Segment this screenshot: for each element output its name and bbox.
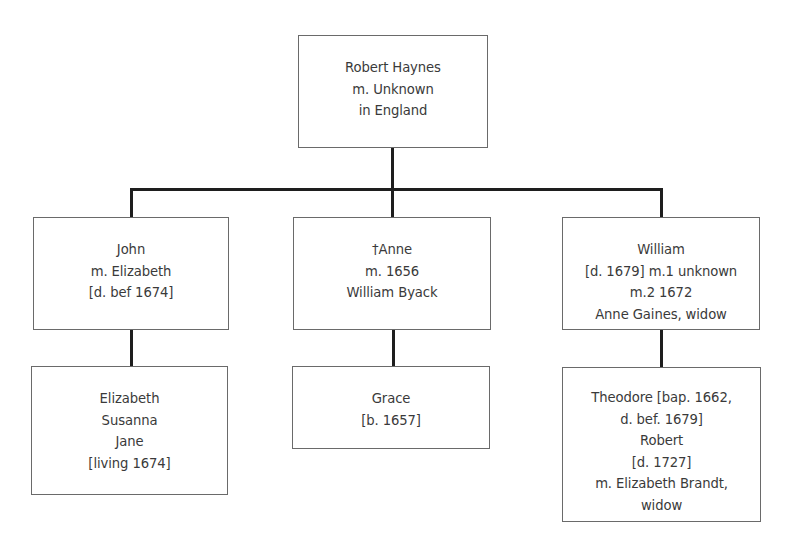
node-line: Jane xyxy=(115,431,143,453)
node-robert-haynes: Robert Haynes m. Unknown in England xyxy=(298,35,488,148)
node-line: d. bef. 1679] xyxy=(620,409,703,431)
node-john: John m. Elizabeth [d. bef 1674] xyxy=(33,217,229,330)
connector-anne-children xyxy=(392,330,395,367)
node-line: widow xyxy=(641,495,682,517)
node-line: in England xyxy=(359,100,428,122)
node-line: William Byack xyxy=(346,282,437,304)
node-line: Grace xyxy=(372,388,411,410)
node-line: [living 1674] xyxy=(88,453,170,475)
node-line: [d. 1727] xyxy=(632,452,692,474)
connector-root-down xyxy=(391,147,394,190)
node-line: Elizabeth xyxy=(100,388,160,410)
connector-to-william xyxy=(660,188,663,218)
connector-john-children xyxy=(130,329,133,367)
node-line: m. Unknown xyxy=(352,79,433,101)
node-line: m. Elizabeth xyxy=(91,261,172,283)
node-line: m. Elizabeth Brandt, xyxy=(595,473,728,495)
node-line: Theodore [bap. 1662, xyxy=(591,387,732,409)
connector-sibling-bar xyxy=(130,188,663,191)
node-line: m.2 1672 xyxy=(630,282,692,304)
node-line: Robert xyxy=(640,430,683,452)
node-john-children: Elizabeth Susanna Jane [living 1674] xyxy=(31,366,228,495)
node-line: Robert Haynes xyxy=(345,57,441,79)
connector-william-children xyxy=(660,330,663,368)
node-line: Anne Gaines, widow xyxy=(595,304,727,326)
node-line: [d. 1679] m.1 unknown xyxy=(585,261,737,283)
family-tree-diagram: Robert Haynes m. Unknown in England John… xyxy=(0,0,795,550)
node-line: m. 1656 xyxy=(365,261,419,283)
connector-to-anne xyxy=(391,188,394,218)
node-line: [b. 1657] xyxy=(361,410,421,432)
connector-to-john xyxy=(130,188,133,218)
node-line: Susanna xyxy=(102,410,158,432)
node-line: William xyxy=(637,239,685,261)
node-anne-children: Grace [b. 1657] xyxy=(292,366,490,449)
node-line: †Anne xyxy=(372,239,412,261)
node-william: William [d. 1679] m.1 unknown m.2 1672 A… xyxy=(562,217,760,330)
node-anne: †Anne m. 1656 William Byack xyxy=(293,217,491,330)
node-william-children: Theodore [bap. 1662, d. bef. 1679] Rober… xyxy=(562,367,761,522)
node-line: John xyxy=(117,239,145,261)
node-line: [d. bef 1674] xyxy=(89,282,174,304)
